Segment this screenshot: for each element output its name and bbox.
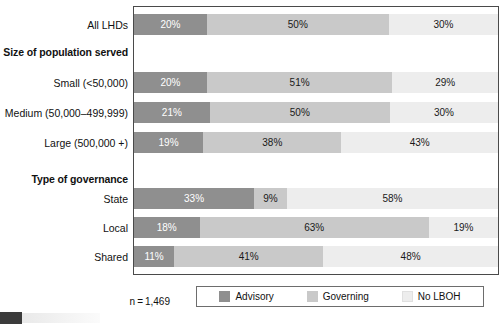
group-heading: Type of governance — [0, 173, 128, 185]
bar-value-label: 38% — [262, 138, 282, 148]
stacked-bar: 18%63%19% — [134, 217, 498, 238]
bar-value-label: 30% — [433, 20, 453, 30]
bar-segment: 48% — [323, 246, 498, 267]
bar-segment: 58% — [287, 188, 498, 209]
bar-segment: 20% — [134, 72, 207, 93]
bar-segment: 38% — [203, 132, 341, 153]
stacked-bar: 20%50%30% — [134, 14, 498, 35]
legend-label: Advisory — [235, 291, 273, 302]
bar-segment: 29% — [392, 72, 498, 93]
stacked-bar: 11%41%48% — [134, 246, 498, 267]
row-label: Medium (50,000–499,999) — [0, 107, 128, 119]
bar-segment: 11% — [134, 246, 174, 267]
stacked-bar: 33%9%58% — [134, 188, 498, 209]
legend-item: Advisory — [219, 291, 273, 302]
bar-value-label: 19% — [159, 138, 179, 148]
bar-segment: 50% — [207, 14, 389, 35]
bar-value-label: 29% — [435, 78, 455, 88]
row-label: Large (500,000 +) — [0, 137, 128, 149]
bar-value-label: 30% — [434, 108, 454, 118]
bar-segment: 21% — [134, 102, 210, 123]
bar-segment: 41% — [174, 246, 323, 267]
bar-value-label: 51% — [290, 78, 310, 88]
bar-value-label: 43% — [410, 138, 430, 148]
bar-value-label: 50% — [288, 20, 308, 30]
stacked-bar: 19%38%43% — [134, 132, 498, 153]
chart-legend: AdvisoryGoverningNo LBOH — [196, 286, 484, 307]
page-corner-mark — [0, 312, 22, 324]
row-label: All LHDs — [0, 19, 128, 31]
bar-value-label: 41% — [239, 252, 259, 262]
bar-segment: 51% — [207, 72, 393, 93]
bar-segment: 20% — [134, 14, 207, 35]
group-heading: Size of population served — [0, 46, 128, 58]
legend-item: No LBOH — [402, 291, 461, 302]
legend-swatch-icon — [402, 291, 413, 302]
stacked-bar: 20%51%29% — [134, 72, 498, 93]
row-label: Small (<50,000) — [0, 77, 128, 89]
sample-size-note: n = 1,469 — [0, 296, 170, 307]
bar-value-label: 20% — [160, 20, 180, 30]
legend-swatch-icon — [219, 291, 230, 302]
bar-value-label: 11% — [144, 252, 163, 262]
bar-value-label: 18% — [157, 223, 177, 233]
bar-segment: 30% — [389, 14, 498, 35]
row-label: State — [0, 193, 128, 205]
bar-value-label: 33% — [184, 194, 204, 204]
bar-segment: 18% — [134, 217, 200, 238]
legend-item: Governing — [307, 291, 369, 302]
row-label: Shared — [0, 251, 128, 263]
bar-segment: 30% — [390, 102, 498, 123]
legend-label: Governing — [323, 291, 369, 302]
row-label: Local — [0, 222, 128, 234]
page-edge-smudge — [22, 313, 100, 323]
legend-swatch-icon — [307, 291, 318, 302]
bar-value-label: 50% — [290, 108, 310, 118]
bar-value-label: 9% — [263, 194, 277, 204]
bar-value-label: 20% — [160, 78, 180, 88]
bar-segment: 19% — [134, 132, 203, 153]
legend-label: No LBOH — [418, 291, 461, 302]
bar-segment: 43% — [341, 132, 498, 153]
bar-value-label: 48% — [401, 252, 421, 262]
bar-value-label: 63% — [304, 223, 324, 233]
bar-segment: 50% — [210, 102, 390, 123]
bar-segment: 9% — [254, 188, 287, 209]
stacked-bar: 21%50%30% — [134, 102, 498, 123]
bar-segment: 33% — [134, 188, 254, 209]
bar-value-label: 21% — [162, 108, 182, 118]
bar-segment: 19% — [429, 217, 498, 238]
bar-value-label: 19% — [453, 223, 473, 233]
bar-segment: 63% — [200, 217, 429, 238]
stacked-bar-chart-figure: Size of population servedType of governa… — [0, 0, 504, 324]
bar-value-label: 58% — [382, 194, 402, 204]
